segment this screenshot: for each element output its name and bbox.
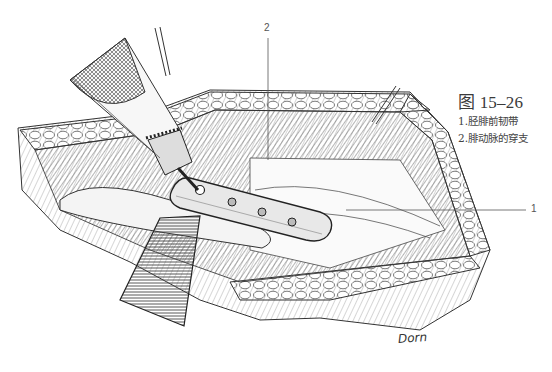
- legend-item-2: 2.腓动脉的穿支: [458, 130, 528, 147]
- callout-label-1: 1: [531, 203, 537, 214]
- screw: [288, 218, 296, 226]
- surgical-illustration: [0, 0, 552, 372]
- artist-signature: Dorn: [398, 330, 428, 346]
- figure-caption: 图 15–26 1.胫腓前韧带 2.腓动脉的穿支: [458, 93, 528, 147]
- screw: [228, 198, 236, 206]
- screw: [258, 208, 266, 216]
- legend-item-1: 1.胫腓前韧带: [458, 113, 528, 130]
- callout-label-2: 2: [264, 22, 270, 33]
- figure-title: 图 15–26: [458, 93, 528, 113]
